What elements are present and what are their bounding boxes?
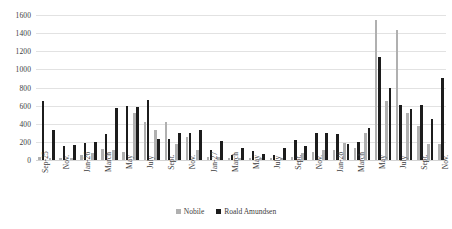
x-axis-category: Sept.	[288, 160, 299, 204]
bar-group	[57, 15, 68, 160]
y-axis-tick-label: 200	[19, 137, 31, 146]
bar-group	[394, 15, 405, 160]
x-axis-category: May	[120, 160, 131, 204]
legend-label-nobile: Nobile	[184, 207, 204, 216]
bar-amundsen	[220, 141, 223, 160]
x-axis-category: March	[225, 160, 236, 204]
x-axis-category	[257, 160, 268, 204]
chart-legend: Nobile Roald Amundsen	[0, 207, 452, 216]
y-axis-tick-label: 1000	[16, 65, 31, 74]
plot-area	[36, 15, 446, 160]
x-axis-tick-label: Nov.	[441, 155, 450, 170]
bar-group	[257, 15, 268, 160]
bar-group	[68, 15, 79, 160]
legend-entry-amundsen[interactable]: Roald Amundsen	[216, 207, 276, 216]
x-axis-category	[320, 160, 331, 204]
bar-group	[267, 15, 278, 160]
x-axis-category: July	[394, 160, 405, 204]
bar-amundsen	[199, 130, 202, 160]
x-axis-category: Sept.	[162, 160, 173, 204]
bar-amundsen	[368, 128, 371, 160]
bar-group	[330, 15, 341, 160]
bar-group	[131, 15, 142, 160]
bar-amundsen	[178, 133, 181, 160]
x-axis-category	[215, 160, 226, 204]
x-axis-category: Sept.	[415, 160, 426, 204]
x-axis-category	[152, 160, 163, 204]
bar-group	[373, 15, 384, 160]
bar-amundsen	[347, 144, 350, 160]
bar-group	[383, 15, 394, 160]
x-axis-category: July	[141, 160, 152, 204]
x-axis-category: March	[99, 160, 110, 204]
bar-group	[225, 15, 236, 160]
bar-amundsen	[389, 88, 392, 161]
bar-amundsen	[325, 133, 328, 160]
y-axis-tick-label: 400	[19, 119, 31, 128]
bar-amundsen	[157, 139, 160, 160]
bar-amundsen	[304, 146, 307, 160]
bar-group	[194, 15, 205, 160]
legend-swatch-icon-amundsen	[216, 209, 221, 214]
bar-group	[309, 15, 320, 160]
bar-group	[351, 15, 362, 160]
x-axis-category	[68, 160, 79, 204]
x-axis-category	[299, 160, 310, 204]
bar-group	[404, 15, 415, 160]
x-axis-category: Nov.	[183, 160, 194, 204]
y-axis-tick-label: 800	[19, 83, 31, 92]
bar-amundsen	[94, 142, 97, 160]
bar-group	[246, 15, 257, 160]
bar-group	[436, 15, 447, 160]
bar-amundsen	[126, 106, 129, 160]
bar-group	[320, 15, 331, 160]
bar-group	[99, 15, 110, 160]
x-axis-category	[47, 160, 58, 204]
bar-amundsen	[52, 130, 55, 160]
x-axis-category: Nov.	[436, 160, 447, 204]
x-axis-category	[194, 160, 205, 204]
bar-amundsen	[136, 107, 139, 160]
y-axis: 02004006008001000120014001600	[0, 15, 31, 160]
bar-amundsen	[378, 57, 381, 160]
bar-group	[89, 15, 100, 160]
bar-amundsen	[241, 148, 244, 160]
bar-group	[415, 15, 426, 160]
bar-amundsen	[73, 145, 76, 160]
bar-amundsen	[431, 119, 434, 160]
x-axis-category: Nov.	[57, 160, 68, 204]
x-axis-category: July	[267, 160, 278, 204]
x-axis-category	[425, 160, 436, 204]
bar-amundsen	[147, 100, 150, 160]
x-axis-category: Jan-28	[330, 160, 341, 204]
bar-group	[425, 15, 436, 160]
bar-group	[110, 15, 121, 160]
bar-amundsen	[283, 148, 286, 160]
bar-group	[299, 15, 310, 160]
bar-group	[236, 15, 247, 160]
x-axis-category: Jan-26	[78, 160, 89, 204]
bar-group	[278, 15, 289, 160]
x-axis-category	[404, 160, 415, 204]
bar-group	[341, 15, 352, 160]
y-axis-tick-label: 1600	[16, 11, 31, 20]
x-axis-category	[341, 160, 352, 204]
x-axis: Sep-25Nov.Jan-26MarchMayJulySept.Nov.Jan…	[36, 160, 446, 204]
x-axis-category	[236, 160, 247, 204]
y-axis-tick-label: 600	[19, 101, 31, 110]
bar-amundsen	[441, 78, 444, 160]
x-axis-category	[362, 160, 373, 204]
x-axis-category: May	[246, 160, 257, 204]
bar-amundsen	[410, 109, 413, 160]
x-axis-category	[383, 160, 394, 204]
bar-group	[162, 15, 173, 160]
bar-group	[36, 15, 47, 160]
legend-entry-nobile[interactable]: Nobile	[176, 207, 204, 216]
bar-group	[141, 15, 152, 160]
legend-label-amundsen: Roald Amundsen	[224, 207, 276, 216]
bar-amundsen	[115, 108, 118, 160]
legend-swatch-icon-nobile	[176, 209, 181, 214]
y-axis-tick-label: 1400	[16, 29, 31, 38]
bar-group	[215, 15, 226, 160]
x-axis-category	[89, 160, 100, 204]
